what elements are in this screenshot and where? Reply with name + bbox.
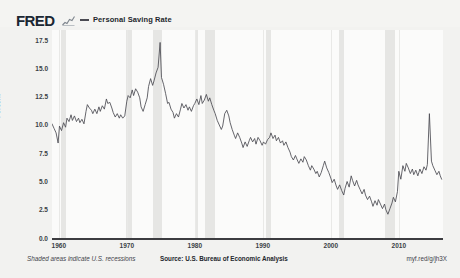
x-axis-tick-label: 1980: [188, 242, 202, 249]
x-axis-tick-label: 1970: [120, 242, 134, 249]
plot-area: [52, 30, 443, 238]
y-axis-tick-label: 12.5: [35, 93, 48, 100]
x-axis-tick-label: 1960: [52, 242, 66, 249]
x-axis-ticks: 196019701980199020002010: [52, 242, 443, 254]
y-axis-tick-label: 0.0: [39, 235, 48, 242]
y-axis-ticks: 0.02.55.07.510.012.515.017.5: [14, 30, 48, 238]
y-axis-tick-label: 5.0: [39, 178, 48, 185]
x-axis-tick-label: 2000: [324, 242, 338, 249]
y-axis-label: Percent: [0, 94, 1, 118]
x-axis-tick-label: 2010: [392, 242, 406, 249]
x-axis-line: [52, 238, 443, 240]
fred-logo: FRED: [16, 13, 54, 28]
y-axis-tick-label: 15.0: [35, 65, 48, 72]
chart-legend: Personal Saving Rate: [80, 15, 172, 24]
fred-chart-container: FRED Personal Saving Rate 0.02.55.07.510…: [0, 0, 460, 278]
chart-footer: Shaded areas indicate U.S. recessions So…: [0, 255, 460, 278]
y-axis-tick-label: 17.5: [35, 37, 48, 44]
sparkline-icon: [62, 16, 75, 26]
y-axis-tick-label: 2.5: [39, 206, 48, 213]
legend-series-label: Personal Saving Rate: [93, 15, 172, 24]
recession-note: Shaded areas indicate U.S. recessions: [27, 255, 136, 262]
y-axis-tick-label: 10.0: [35, 121, 48, 128]
y-axis-tick-label: 7.5: [39, 150, 48, 157]
source-attribution: Source: U.S. Bureau of Economic Analysis: [160, 255, 288, 262]
x-axis-tick-label: 1990: [256, 242, 270, 249]
series-line-personal-saving-rate: [52, 30, 443, 238]
short-url[interactable]: myf.red/g/jh3X: [406, 255, 447, 262]
legend-color-swatch: [80, 19, 89, 21]
chart-header: FRED Personal Saving Rate: [0, 0, 460, 27]
